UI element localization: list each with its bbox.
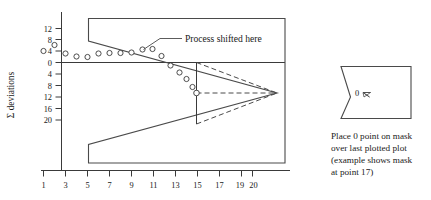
x-tick-label: 11: [149, 181, 157, 190]
y-axis-title: Σ deviations: [6, 71, 16, 118]
data-point: [140, 47, 145, 52]
mask-legend-shape: [341, 67, 411, 119]
x-axis-ticks: [44, 171, 253, 177]
data-point: [129, 50, 134, 55]
data-points-group: [41, 42, 199, 95]
y-tick-label: 4: [48, 47, 53, 56]
y-tick-label: 20: [44, 116, 52, 125]
y-tick-label: 4: [48, 70, 53, 79]
caption-line: Place 0 point on mask: [331, 131, 413, 141]
y-tick-label: 0: [48, 59, 52, 68]
x-tick-label: 19: [236, 181, 244, 190]
y-tick-label: 12: [44, 93, 52, 102]
figure-container: 12 8 4 0 4 8 12 16 20 Σ deviations: [0, 0, 431, 200]
y-tick-label: 16: [44, 105, 52, 114]
mask-legend-caption: Place 0 point on mask over last plotted …: [331, 131, 413, 177]
mask-zero-label: 0: [355, 89, 359, 98]
data-point: [41, 48, 46, 53]
data-point: [150, 46, 155, 51]
caption-line: (example shows mask: [331, 155, 413, 165]
x-tick-label: 1: [41, 181, 45, 190]
data-point: [107, 50, 112, 55]
x-tick-label: 7: [107, 181, 111, 190]
data-point: [52, 42, 57, 47]
caption-line: over last plotted plot: [331, 143, 407, 153]
cusum-chart-svg: 12 8 4 0 4 8 12 16 20 Σ deviations: [0, 0, 431, 200]
annotation-label: Process shifted here: [185, 33, 262, 44]
data-point: [74, 54, 79, 59]
mask-upper-arm-dashed: [197, 63, 278, 94]
y-tick-label: 12: [44, 25, 52, 34]
y-axis-tick-labels: 12 8 4 0 4 8 12 16 20: [44, 25, 53, 126]
caption-line: at point 17): [331, 167, 373, 177]
data-point-last: [194, 90, 200, 96]
x-tick-label: 3: [63, 181, 67, 190]
data-point: [184, 76, 189, 81]
data-point: [177, 70, 182, 75]
data-point: [85, 54, 90, 59]
y-tick-label: 8: [48, 82, 52, 91]
process-shift-annotation: Process shifted here: [144, 33, 262, 50]
data-point: [118, 50, 123, 55]
x-tick-label: 15: [193, 181, 201, 190]
x-tick-label: 17: [215, 181, 223, 190]
y-tick-label: 8: [48, 36, 52, 45]
y-axis-ticks: [56, 29, 62, 121]
v-mask-dashed-arms: [197, 63, 278, 125]
x-tick-label: 20: [249, 181, 257, 190]
x-tick-label: 5: [85, 181, 89, 190]
x-tick-label: 9: [129, 181, 133, 190]
data-point: [159, 53, 164, 58]
data-point: [96, 51, 101, 56]
x-axis-tick-labels: 1 3 5 7 9 11 13 15 17 19 20: [41, 181, 257, 190]
mask-legend-icon: 0: [341, 67, 411, 119]
data-point: [190, 84, 195, 89]
x-tick-label: 13: [171, 181, 179, 190]
data-point: [168, 63, 173, 68]
data-point: [63, 51, 68, 56]
annotation-leader-line: [144, 39, 183, 50]
mask-lower-arm-dashed: [197, 93, 278, 124]
